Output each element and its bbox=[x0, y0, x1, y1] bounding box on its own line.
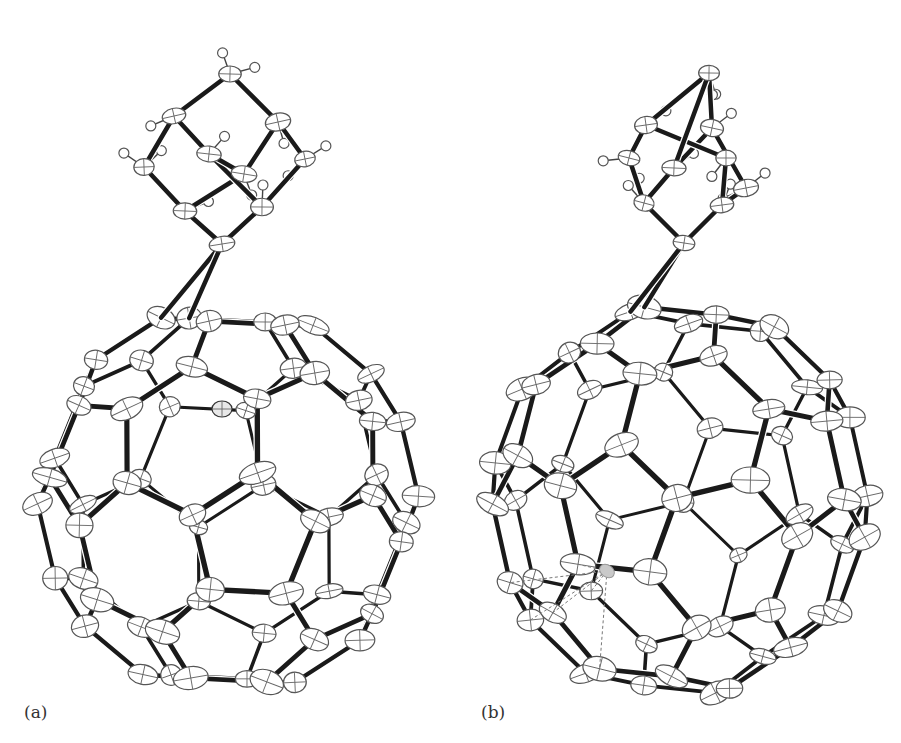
carbon-atom bbox=[817, 371, 843, 390]
carbon-atom bbox=[574, 377, 605, 404]
carbon-atom bbox=[251, 198, 274, 216]
carbon-atom bbox=[716, 150, 736, 166]
hydrogen-atom bbox=[726, 108, 736, 118]
carbon-atom bbox=[314, 582, 344, 601]
panel-label-b: (b) bbox=[481, 702, 505, 722]
carbon-atom bbox=[66, 513, 94, 538]
carbon-atom bbox=[662, 160, 687, 177]
panel-label-a: (a) bbox=[24, 702, 47, 722]
carbon-atom bbox=[266, 578, 306, 609]
carbon-atom bbox=[156, 393, 183, 420]
carbon-atom bbox=[754, 596, 787, 624]
cage-atoms bbox=[19, 302, 435, 699]
carbon-atom bbox=[43, 566, 68, 590]
hydrogen-atom bbox=[220, 131, 230, 141]
hydrogen-atom bbox=[250, 62, 260, 72]
carbon-atom bbox=[19, 488, 56, 520]
carbon-atom bbox=[64, 392, 94, 419]
panel-a-structure bbox=[19, 48, 435, 699]
carbon-atom bbox=[580, 333, 614, 355]
carbon-atom bbox=[218, 66, 241, 83]
carbon-atom bbox=[361, 582, 393, 607]
carbon-atom bbox=[402, 485, 436, 508]
cage-atoms bbox=[473, 292, 885, 710]
carbon-atom bbox=[731, 467, 770, 494]
hydrogen-atom bbox=[258, 180, 268, 190]
carbon-atom bbox=[810, 410, 844, 433]
carbon-atom bbox=[384, 409, 417, 434]
hydrogen-atom bbox=[623, 180, 633, 190]
carbon-atom bbox=[283, 672, 307, 693]
hydrogen-atom bbox=[760, 168, 770, 178]
hydrogen-atom bbox=[707, 171, 717, 181]
carbon-atom bbox=[345, 629, 375, 651]
carbon-atom bbox=[709, 196, 734, 214]
hydrogen-atom bbox=[146, 121, 156, 131]
hydrogen-atom bbox=[321, 141, 331, 151]
figure: (a) (b) bbox=[0, 0, 901, 743]
spiro-bonds bbox=[161, 244, 222, 318]
hydrogen-atom bbox=[218, 48, 228, 58]
ortep-figure bbox=[0, 0, 901, 743]
carbon-atom bbox=[71, 374, 97, 399]
carbon-atom bbox=[716, 678, 743, 698]
carbon-atom bbox=[703, 305, 729, 324]
carbon-atom bbox=[133, 158, 154, 176]
carbon-atom bbox=[616, 148, 641, 168]
carbon-atom bbox=[196, 145, 222, 163]
hydrogen-atom bbox=[598, 156, 608, 166]
panel-b-structure bbox=[473, 65, 885, 710]
carbon-atom bbox=[344, 388, 374, 413]
carbon-atom bbox=[699, 65, 720, 81]
hydrogen-atom bbox=[119, 148, 129, 158]
carbon-atom bbox=[521, 567, 546, 591]
carbon-atom bbox=[173, 202, 197, 219]
carbon-atom bbox=[769, 423, 796, 448]
adamantane-bonds bbox=[144, 74, 305, 244]
encapsulated-atom bbox=[212, 401, 232, 417]
